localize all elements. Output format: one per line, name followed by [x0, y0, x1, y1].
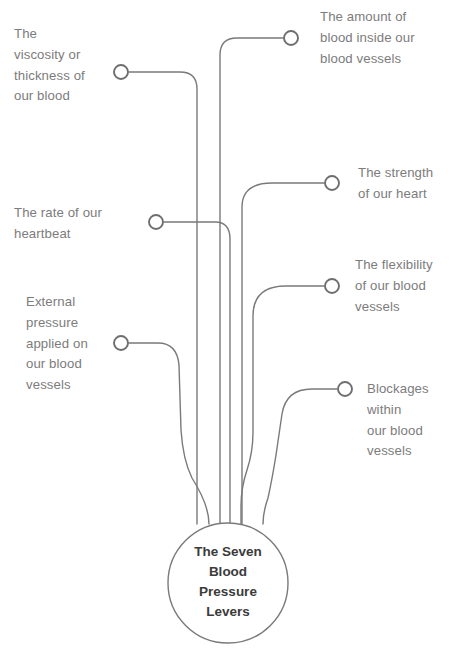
- label-blood-amount: The amount of blood inside our blood ves…: [320, 7, 415, 69]
- label-external-pressure: External pressure applied on our blood v…: [26, 292, 88, 396]
- label-viscosity: The viscosity or thickness of our blood: [14, 24, 85, 107]
- endpoint-node-heart-strength[interactable]: [325, 176, 339, 190]
- connector-lines: [129, 38, 337, 524]
- endpoint-node-blood-amount[interactable]: [284, 31, 298, 45]
- endpoint-node-heart-rate[interactable]: [149, 215, 163, 229]
- label-vessel-flexibility: The flexibility of our blood vessels: [355, 255, 433, 317]
- connector-heart-strength: [242, 183, 324, 524]
- endpoint-node-external-pressure[interactable]: [114, 336, 128, 350]
- hub-title: The Seven Blood Pressure Levers: [168, 542, 288, 622]
- endpoint-node-blockages[interactable]: [338, 382, 352, 396]
- endpoint-node-group: [114, 31, 352, 396]
- connector-blockages: [263, 389, 337, 524]
- connector-vessel-flexibility: [241, 286, 324, 524]
- label-blockages: Blockages within our blood vessels: [367, 379, 429, 462]
- diagram-canvas: The Seven Blood Pressure Levers The visc…: [0, 0, 459, 671]
- label-heart-strength: The strength of our heart: [358, 163, 433, 205]
- endpoint-node-viscosity[interactable]: [114, 65, 128, 79]
- connector-viscosity: [129, 72, 197, 524]
- label-heart-rate: The rate of our heartbeat: [14, 203, 102, 245]
- endpoint-node-vessel-flexibility[interactable]: [325, 279, 339, 293]
